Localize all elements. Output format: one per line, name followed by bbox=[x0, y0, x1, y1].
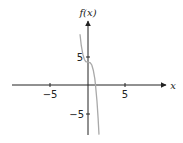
y-tick-label-neg5: −5 bbox=[69, 109, 84, 120]
x-tick-label-pos5: 5 bbox=[122, 89, 128, 100]
function-graph: −5 5 5 −5 f(x) x bbox=[0, 0, 183, 143]
y-axis-title: f(x) bbox=[78, 7, 96, 18]
x-axis-title: x bbox=[170, 80, 176, 91]
x-tick-label-neg5: −5 bbox=[43, 89, 58, 100]
